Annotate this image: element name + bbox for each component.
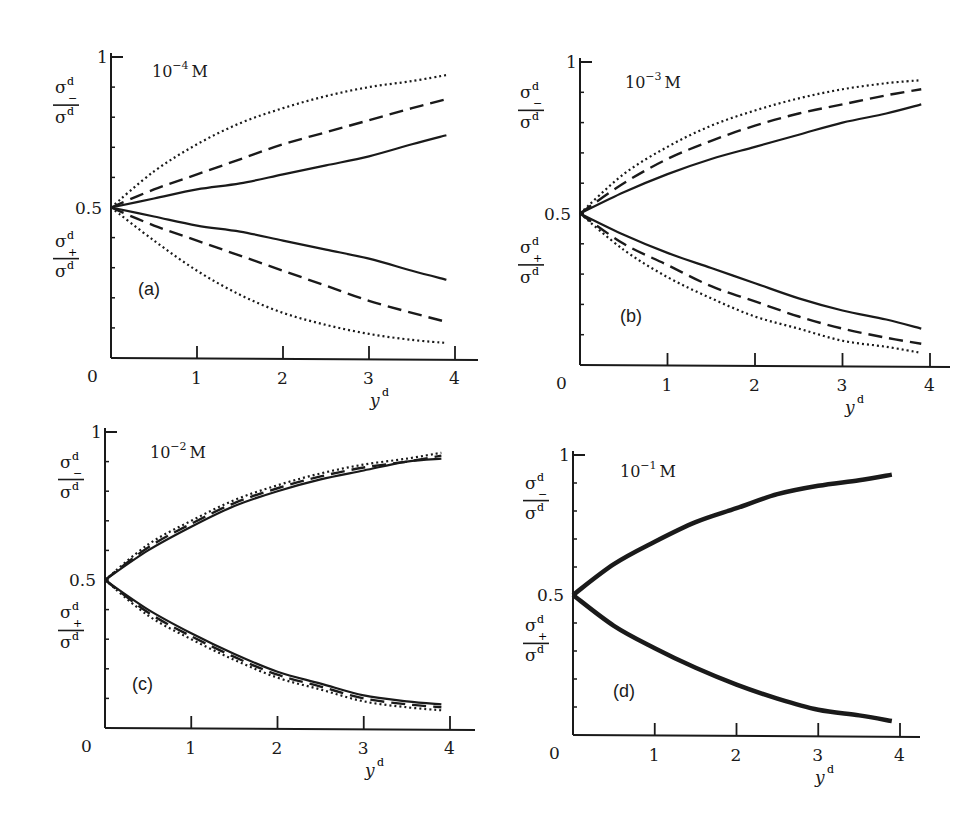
- x-axis-label: y: [364, 760, 375, 780]
- x-tick-label: 3: [363, 368, 374, 388]
- y-label-sup: d: [67, 259, 74, 272]
- x-tick-label: 2: [272, 738, 283, 758]
- panel-label: (b): [620, 306, 642, 326]
- origin-label: 0: [549, 743, 560, 763]
- concentration-label: 10−1M: [620, 459, 676, 481]
- x-tick-label: 1: [191, 368, 202, 388]
- x-tick-label: 1: [662, 375, 673, 395]
- y-label-denominator: σ: [525, 645, 537, 665]
- y-label-denominator: σ: [525, 503, 537, 523]
- y-label-sub: +: [73, 617, 82, 630]
- x-tick-label: 3: [837, 375, 848, 395]
- x-axis: [580, 365, 950, 367]
- origin-label: 0: [556, 373, 567, 393]
- x-tick-label: 3: [812, 745, 823, 765]
- y-label-numerator: σ: [520, 237, 532, 257]
- x-axis-label-sup: d: [382, 386, 389, 399]
- y-label-numerator: σ: [60, 602, 72, 622]
- y-label-sup: d: [72, 630, 79, 643]
- panel-c: 123400.51ydσd−σdσd+σd10−2M(c): [58, 422, 475, 780]
- y-label-denominator: σ: [520, 267, 532, 287]
- y-label-sup: d: [72, 480, 79, 493]
- panel-d: 123400.51ydσd−σdσd+σd10−1M(d): [523, 445, 920, 787]
- y-tick-label-half: 0.5: [537, 585, 564, 605]
- curve-dotted: [580, 80, 921, 213]
- y-label-sup: d: [532, 235, 539, 248]
- y-label-sub: −: [533, 97, 542, 110]
- curve-solid: [105, 459, 441, 580]
- curve-dashed: [105, 580, 441, 707]
- y-label-sup: d: [67, 75, 74, 88]
- x-axis-label: y: [814, 767, 825, 787]
- curve-dashed: [580, 89, 921, 213]
- x-tick-label: 4: [444, 738, 455, 758]
- y-tick-label-one: 1: [97, 47, 108, 67]
- x-axis-label-sup: d: [377, 756, 384, 769]
- y-label-denominator: σ: [55, 107, 67, 127]
- curve-dashed: [105, 456, 441, 580]
- x-tick-label: 4: [894, 745, 905, 765]
- y-label-numerator: σ: [55, 231, 67, 251]
- panel-a: 123400.51ydσd−σdσd+σd10−4M(a): [53, 47, 478, 410]
- curve-solid: [573, 595, 892, 721]
- y-label-sup: d: [537, 643, 544, 656]
- panel-label: (a): [138, 279, 160, 299]
- y-label-sup: d: [537, 501, 544, 514]
- x-axis-label: y: [369, 390, 380, 410]
- origin-label: 0: [81, 736, 92, 756]
- x-tick-label: 2: [731, 745, 742, 765]
- concentration-label: 10−4M: [152, 59, 208, 81]
- y-tick-label-one: 1: [566, 52, 577, 72]
- y-label-sup: d: [532, 110, 539, 123]
- y-label-sup: d: [532, 265, 539, 278]
- x-axis-label-sup: d: [857, 393, 864, 406]
- curve-solid: [105, 580, 441, 704]
- curve-dashed: [111, 208, 446, 322]
- y-label-sub: −: [538, 488, 547, 501]
- curve-solid: [573, 475, 892, 595]
- figure: 123400.51ydσd−σdσd+σd10−4M(a)123400.51yd…: [0, 0, 980, 825]
- y-label-sup: d: [72, 600, 79, 613]
- x-tick-label: 4: [449, 368, 460, 388]
- y-tick-label-one: 1: [559, 445, 570, 465]
- panel-b: 123400.51ydσd−σdσd+σd10−3M(b): [518, 52, 950, 417]
- y-label-sub: −: [73, 467, 82, 480]
- x-axis-label-sup: d: [827, 763, 834, 776]
- y-label-sup: d: [537, 613, 544, 626]
- x-tick-label: 2: [749, 375, 760, 395]
- curve-dotted: [580, 214, 921, 353]
- origin-label: 0: [87, 366, 98, 386]
- y-label-sup: d: [67, 105, 74, 118]
- x-tick-label: 1: [649, 745, 660, 765]
- curve-solid: [580, 104, 921, 213]
- y-label-numerator: σ: [525, 473, 537, 493]
- panel-label: (d): [613, 681, 635, 701]
- x-axis-label: y: [844, 397, 855, 417]
- x-axis: [105, 728, 475, 730]
- y-tick-label-one: 1: [91, 422, 102, 442]
- y-label-sub: +: [538, 630, 547, 643]
- y-label-sub: +: [68, 246, 77, 259]
- y-label-denominator: σ: [520, 112, 532, 132]
- y-label-sub: +: [533, 252, 542, 265]
- curve-dotted: [105, 453, 441, 580]
- x-tick-label: 4: [924, 375, 935, 395]
- curve-dotted: [105, 580, 441, 710]
- y-label-numerator: σ: [60, 452, 72, 472]
- y-label-sub: −: [68, 92, 77, 105]
- x-axis: [111, 358, 478, 360]
- curve-dashed: [111, 99, 446, 207]
- y-label-sup: d: [67, 229, 74, 242]
- y-label-sup: d: [72, 450, 79, 463]
- x-axis: [573, 735, 920, 737]
- y-label-denominator: σ: [55, 261, 67, 281]
- concentration-label: 10−2M: [150, 440, 206, 462]
- y-tick-label-half: 0.5: [69, 570, 96, 590]
- panel-label: (c): [132, 674, 153, 694]
- y-label-sup: d: [537, 471, 544, 484]
- y-label-denominator: σ: [60, 632, 72, 652]
- y-tick-label-half: 0.5: [544, 204, 571, 224]
- x-tick-label: 1: [185, 738, 196, 758]
- y-label-numerator: σ: [55, 77, 67, 97]
- y-label-numerator: σ: [525, 615, 537, 635]
